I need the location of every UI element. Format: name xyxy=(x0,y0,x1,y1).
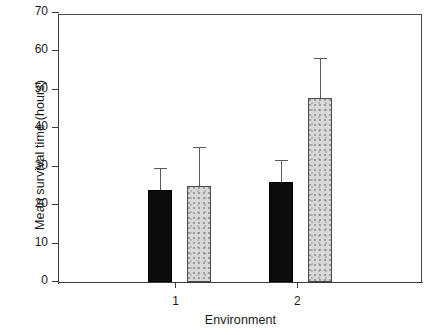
chart-figure: Mean survival time (hours) 7060504030201… xyxy=(0,0,433,335)
bar-env1-black-error-cap xyxy=(154,168,167,169)
bar-env2-black-error-whisker xyxy=(281,161,282,182)
bar-env1-grey xyxy=(187,186,211,282)
y-tick-30: 30 xyxy=(52,166,59,167)
x-tick-2: 2 xyxy=(297,282,298,288)
y-tick-label: 70 xyxy=(35,4,48,18)
y-tick-label: 60 xyxy=(35,42,48,56)
y-tick-40: 40 xyxy=(52,127,59,128)
x-tick-label: 1 xyxy=(155,294,195,308)
bar-env2-grey-error-whisker xyxy=(320,59,321,97)
x-tick-label: 2 xyxy=(277,294,317,308)
y-tick-label: 30 xyxy=(35,158,48,172)
bar-env1-grey-error-cap xyxy=(193,147,206,148)
y-tick-20: 20 xyxy=(52,204,59,205)
plot-area: 706050403020100 12 xyxy=(58,14,422,283)
y-tick-label: 0 xyxy=(41,273,48,287)
y-tick-label: 40 xyxy=(35,119,48,133)
y-tick-70: 70 xyxy=(52,12,59,13)
bar-env2-grey xyxy=(308,98,332,282)
bar-env2-grey-error-cap xyxy=(314,58,327,59)
bar-env1-black xyxy=(148,190,172,282)
x-tick-1: 1 xyxy=(175,282,176,288)
y-tick-10: 10 xyxy=(52,243,59,244)
bar-env1-grey-error-whisker xyxy=(199,148,200,186)
y-tick-50: 50 xyxy=(52,89,59,90)
y-tick-label: 20 xyxy=(35,196,48,210)
bar-env2-black xyxy=(269,182,293,282)
bar-env1-black-error-whisker xyxy=(160,169,161,190)
bar-env2-black-error-cap xyxy=(275,160,288,161)
y-tick-label: 50 xyxy=(35,81,48,95)
y-tick-0: 0 xyxy=(52,281,59,282)
y-tick-60: 60 xyxy=(52,50,59,51)
y-tick-label: 10 xyxy=(35,235,48,249)
x-axis-title: Environment xyxy=(58,313,423,327)
